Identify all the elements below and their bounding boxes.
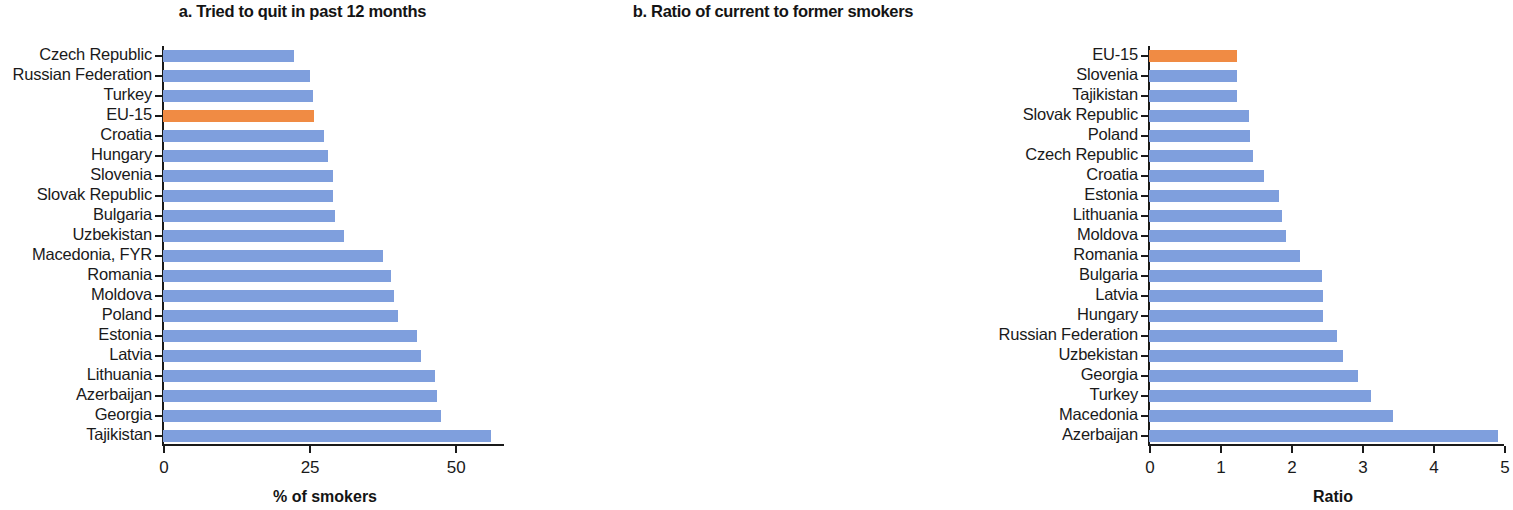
bar-row: Romania: [1149, 246, 1504, 266]
bar-row: EU-15: [163, 106, 502, 126]
y-axis-category-label: Azerbaijan: [76, 384, 152, 404]
bar-row: Tajikistan: [163, 426, 502, 446]
y-axis-category-label: Croatia: [100, 124, 152, 144]
y-axis-tick: [1141, 215, 1148, 217]
y-axis-category-label: EU-15: [1092, 44, 1138, 64]
y-axis-tick: [1141, 435, 1148, 437]
bar: [163, 50, 294, 62]
y-axis-category-label: Tajikistan: [86, 424, 152, 444]
y-axis-category-label: Estonia: [1084, 184, 1138, 204]
y-axis-tick: [155, 235, 162, 237]
y-axis-category-label: Czech Republic: [39, 44, 152, 64]
y-axis-category-label: Hungary: [1077, 304, 1138, 324]
y-axis-category-label: Romania: [87, 264, 152, 284]
bar: [163, 170, 333, 182]
y-axis-tick: [155, 355, 162, 357]
x-axis-tick-label: 3: [1358, 458, 1367, 478]
y-axis-tick: [1141, 415, 1148, 417]
x-axis-tick: [1291, 446, 1293, 453]
y-axis-tick: [155, 75, 162, 77]
bar: [1149, 50, 1237, 62]
bar-row: Poland: [163, 306, 502, 326]
bar: [1149, 210, 1282, 222]
y-axis-tick: [155, 415, 162, 417]
y-axis-tick: [1141, 55, 1148, 57]
y-axis-category-label: Russian Federation: [13, 64, 152, 84]
bar-row: Slovak Republic: [163, 186, 502, 206]
x-axis-tick: [309, 446, 311, 453]
bar-row: Uzbekistan: [163, 226, 502, 246]
y-axis-tick: [155, 295, 162, 297]
bar-row: Georgia: [163, 406, 502, 426]
bar: [1149, 430, 1498, 442]
x-axis-tick-label: 25: [301, 458, 320, 478]
x-axis-tick-label: 50: [447, 458, 466, 478]
bar: [163, 330, 417, 342]
panel-a-title: a. Tried to quit in past 12 months: [0, 2, 505, 21]
bar: [1149, 90, 1237, 102]
bar: [163, 370, 435, 382]
y-axis-category-label: Slovenia: [90, 164, 152, 184]
bar: [1149, 290, 1323, 302]
bar-row: Slovenia: [1149, 66, 1504, 86]
x-axis-tick: [455, 446, 457, 453]
y-axis-tick: [1141, 395, 1148, 397]
x-axis-tick-label: 2: [1287, 458, 1296, 478]
bar-row: Georgia: [1149, 366, 1504, 386]
bar: [1149, 150, 1253, 162]
y-axis-category-label: Azerbaijan: [1062, 424, 1138, 444]
bar: [163, 210, 335, 222]
x-axis-tick: [163, 446, 165, 453]
bar-row: Lithuania: [1149, 206, 1504, 226]
bar-row: Bulgaria: [1149, 266, 1504, 286]
x-axis-tick-label: 0: [159, 458, 168, 478]
y-axis-category-label: Georgia: [1081, 364, 1138, 384]
y-axis-category-label: Slovak Republic: [37, 184, 152, 204]
bar-row: Hungary: [1149, 306, 1504, 326]
y-axis-category-label: Czech Republic: [1025, 144, 1138, 164]
bar-row: Uzbekistan: [1149, 346, 1504, 366]
chart-panel-a: a. Tried to quit in past 12 months % of …: [0, 0, 505, 510]
bar: [163, 410, 441, 422]
y-axis-category-label: Poland: [102, 304, 152, 324]
x-axis-tick: [1504, 446, 1506, 453]
bar-row: Macedonia, FYR: [163, 246, 502, 266]
bar-row: Estonia: [1149, 186, 1504, 206]
y-axis-category-label: Uzbekistan: [72, 224, 152, 244]
panel-a-x-axis-title: % of smokers: [155, 488, 495, 506]
y-axis-tick: [155, 115, 162, 117]
y-axis-category-label: Russian Federation: [999, 324, 1138, 344]
bar: [1149, 250, 1300, 262]
bar-row: Russian Federation: [1149, 326, 1504, 346]
bar-row: Czech Republic: [1149, 146, 1504, 166]
bar-row: Czech Republic: [163, 46, 502, 66]
bar-row: Moldova: [163, 286, 502, 306]
y-axis-tick: [155, 435, 162, 437]
bar-row: Romania: [163, 266, 502, 286]
bar-row: Tajikistan: [1149, 86, 1504, 106]
y-axis-tick: [155, 215, 162, 217]
y-axis-tick: [1141, 295, 1148, 297]
y-axis-category-label: Macedonia, FYR: [32, 244, 152, 264]
bar-row: Bulgaria: [163, 206, 502, 226]
y-axis-tick: [155, 135, 162, 137]
y-axis-category-label: Macedonia: [1059, 404, 1138, 424]
bar: [163, 390, 437, 402]
bar-row: Moldova: [1149, 226, 1504, 246]
y-axis-tick: [155, 95, 162, 97]
bar-row: Estonia: [163, 326, 502, 346]
y-axis-category-label: Moldova: [91, 284, 152, 304]
x-axis-tick: [1433, 446, 1435, 453]
y-axis-category-label: Slovenia: [1076, 64, 1138, 84]
bar: [1149, 270, 1322, 282]
y-axis-category-label: Poland: [1088, 124, 1138, 144]
y-axis-tick: [1141, 155, 1148, 157]
bar: [1149, 330, 1337, 342]
x-axis-tick: [1149, 446, 1151, 453]
bar: [1149, 350, 1343, 362]
y-axis-tick: [1141, 355, 1148, 357]
y-axis-category-label: Lithuania: [87, 364, 152, 384]
bar-row: Hungary: [163, 146, 502, 166]
y-axis-category-label: Bulgaria: [93, 204, 152, 224]
